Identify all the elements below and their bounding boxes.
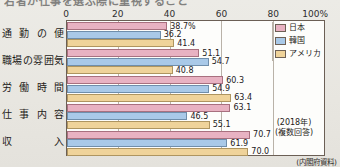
bar-kr: [67, 139, 227, 147]
note-multiple-answers: (複数回答): [266, 128, 322, 138]
legend-item-us: アメリカ: [275, 48, 322, 59]
bar-value-label: 40.8: [174, 67, 194, 75]
bar-value-label: 63.1: [231, 104, 251, 112]
legend-swatch-icon-us: [275, 50, 286, 58]
bar-value-label: 36.2: [162, 31, 182, 39]
bar-value-label: 46.5: [188, 113, 208, 121]
legend-swatch-icon-kr: [275, 37, 286, 45]
bar-jp: [67, 76, 223, 84]
bar-value-label: 55.1: [211, 121, 231, 129]
clipped-headline: 若者が仕事を選ぶ際に重視すること: [0, 0, 340, 8]
x-tick-label-20: 20: [112, 9, 123, 20]
bar-value-label: 61.9: [228, 140, 248, 148]
x-tick-label-0: 0: [63, 9, 69, 20]
bar-kr: [67, 112, 187, 120]
legend-label-jp: 日本: [289, 23, 305, 32]
bar-group: 60.354.963.4: [67, 75, 324, 102]
bar-jp: [67, 104, 230, 112]
category-label-0: 通勤の便: [2, 28, 64, 39]
clipped-headline-text: 若者が仕事を選ぶ際に重視すること: [4, 0, 188, 7]
source-note: (内閣府資料): [296, 156, 337, 167]
bar-value-label: 54.7: [210, 58, 230, 66]
x-tick-label-80: 80: [267, 9, 278, 20]
legend-swatch-icon-jp: [275, 24, 286, 32]
x-tick-label-100: 100%: [302, 9, 328, 20]
category-label-1: 職場の雰囲気: [2, 55, 64, 66]
note-box: (2018年) (複数回答): [266, 118, 322, 138]
x-tick-label-60: 60: [216, 9, 227, 20]
bar-jp: [67, 22, 167, 30]
bar-kr: [67, 31, 161, 39]
legend-item-jp: 日本: [275, 22, 322, 33]
chart-figure: 若者が仕事を選ぶ際に重視すること 020406080100% 38.7%36.2…: [0, 0, 340, 167]
legend-label-us: アメリカ: [289, 49, 321, 58]
bar-us: [67, 148, 248, 156]
legend-label-kr: 韓国: [289, 36, 305, 45]
note-year: (2018年): [266, 118, 322, 128]
category-label-3: 仕事内容: [2, 109, 64, 120]
legend-item-kr: 韓国: [275, 35, 322, 46]
x-axis-tick-labels: 020406080100%: [0, 9, 340, 20]
bar-us: [67, 66, 173, 74]
bar-value-label: 54.9: [210, 85, 230, 93]
bar-us: [67, 94, 231, 102]
bar-us: [67, 39, 174, 47]
bar-kr: [67, 58, 209, 66]
category-label-2: 労働時間: [2, 82, 64, 93]
bar-jp: [67, 49, 199, 57]
category-label-4: 収 入: [2, 136, 64, 147]
bar-value-label: 70.0: [249, 148, 269, 156]
chart-legend: 日本韓国アメリカ: [272, 22, 322, 61]
bar-us: [67, 121, 210, 129]
x-tick-label-40: 40: [164, 9, 175, 20]
bar-value-label: 41.4: [175, 40, 195, 48]
bar-jp: [67, 131, 250, 139]
bar-value-label: 63.4: [232, 94, 252, 102]
bar-kr: [67, 85, 209, 93]
